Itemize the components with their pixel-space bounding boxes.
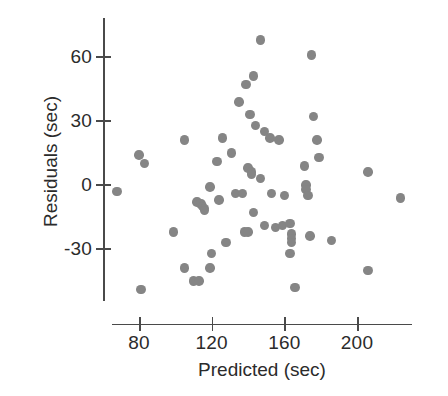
- scatter-point: [180, 263, 190, 273]
- scatter-point: [267, 189, 277, 199]
- scatter-point: [243, 227, 253, 237]
- scatter-point: [249, 71, 259, 81]
- scatter-point: [218, 133, 228, 143]
- scatter-point: [180, 135, 190, 145]
- scatter-point: [112, 187, 122, 197]
- scatter-point: [285, 249, 295, 259]
- x-axis-title: Predicted (sec): [112, 360, 412, 379]
- scatter-point: [265, 133, 275, 143]
- scatter-point: [327, 236, 337, 246]
- scatter-point: [227, 148, 237, 158]
- scatter-point: [251, 121, 261, 131]
- scatter-point: [194, 276, 204, 286]
- scatter-point: [214, 195, 224, 205]
- scatter-point: [280, 191, 290, 201]
- scatter-point: [249, 208, 259, 218]
- scatter-point: [396, 193, 406, 203]
- scatter-point: [274, 135, 284, 145]
- scatter-point: [205, 263, 215, 273]
- scatter-point: [140, 159, 150, 169]
- scatter-point: [256, 35, 266, 45]
- scatter-point: [363, 167, 373, 177]
- scatter-point: [300, 161, 310, 171]
- scatter-point: [241, 80, 251, 90]
- scatter-point: [287, 238, 297, 248]
- scatter-point: [305, 231, 315, 241]
- scatter-point: [200, 206, 210, 216]
- residual-scatter-plot: 60300-30 80120160200 Predicted (sec) Res…: [0, 0, 448, 396]
- scatter-point: [221, 238, 231, 248]
- scatter-point: [309, 112, 319, 122]
- scatter-point: [256, 174, 266, 184]
- scatter-point: [136, 285, 146, 295]
- scatter-point: [307, 50, 317, 60]
- y-axis-title: Residuals (sec): [41, 17, 60, 307]
- scatter-point: [290, 283, 300, 293]
- scatter-point: [238, 189, 248, 199]
- scatter-points-layer: [0, 0, 448, 396]
- scatter-point: [303, 191, 313, 201]
- scatter-point: [363, 266, 373, 276]
- scatter-point: [205, 182, 215, 192]
- scatter-point: [245, 110, 255, 120]
- scatter-point: [314, 153, 324, 163]
- scatter-point: [207, 249, 217, 259]
- scatter-point: [212, 157, 222, 167]
- scatter-point: [169, 227, 179, 237]
- scatter-point: [312, 135, 322, 145]
- scatter-point: [260, 221, 270, 231]
- scatter-point: [234, 97, 244, 107]
- scatter-point: [285, 219, 295, 229]
- scatter-point: [247, 170, 257, 180]
